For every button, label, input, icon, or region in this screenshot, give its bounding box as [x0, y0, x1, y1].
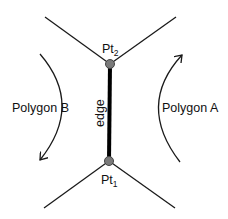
vertex-pt1 — [105, 157, 114, 166]
upper-left-line — [45, 17, 110, 64]
polygon-a-label: Polygon A — [162, 101, 219, 115]
vertex-pt2 — [106, 60, 115, 69]
polygon-edge-diagram: Pt2 Pt1 edge Polygon B Polygon A — [0, 0, 228, 219]
upper-right-line — [110, 17, 176, 64]
pt2-label: Pt2 — [102, 42, 119, 58]
shared-edge — [109, 64, 110, 161]
polygon-b-label: Polygon B — [12, 101, 69, 115]
pt1-label: Pt1 — [101, 173, 118, 189]
edge-label: edge — [93, 99, 107, 127]
lower-right-line — [109, 161, 175, 208]
lower-left-line — [44, 161, 109, 208]
